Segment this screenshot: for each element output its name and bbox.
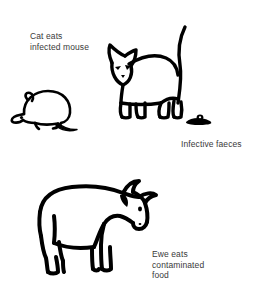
label-infective-faeces: Infective faeces (181, 139, 242, 150)
label-ewe-eats-contaminated-food: Ewe eats contaminated food (152, 249, 204, 281)
mouse-illustration (8, 84, 80, 132)
cat-illustration (96, 17, 208, 121)
faeces-illustration (184, 113, 214, 129)
diagram-canvas: Cat eats infected mouse Infective faeces… (0, 0, 261, 290)
label-cat-eats-infected-mouse: Cat eats infected mouse (30, 31, 89, 52)
ewe-cow-illustration (28, 168, 168, 286)
